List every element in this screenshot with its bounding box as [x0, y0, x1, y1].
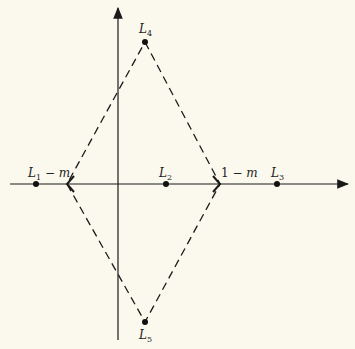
label-L3: L3: [270, 166, 284, 182]
point-L4: [142, 39, 148, 45]
label-L5: L5: [138, 328, 152, 344]
label-1-minus-m: 1 − m: [221, 166, 258, 180]
label-L2: L2: [158, 166, 172, 182]
point-L5: [142, 319, 148, 325]
lagrange-points-diagram: L1 − m L2 L3 L4 L5 1 − m: [0, 0, 355, 349]
label-L1-minus-m: L1 − m: [27, 166, 70, 182]
dashed-rhombus: [67, 42, 220, 322]
label-L4: L4: [138, 22, 152, 38]
